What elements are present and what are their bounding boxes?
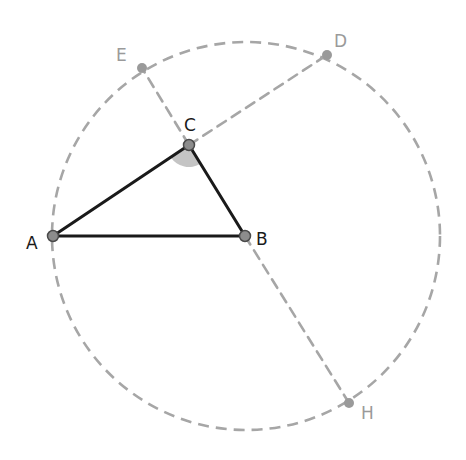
point-c[interactable] — [184, 140, 195, 151]
label-h: H — [361, 405, 374, 422]
dashed-segment-ce — [142, 68, 189, 145]
point-b[interactable] — [240, 231, 251, 242]
point-a[interactable] — [48, 231, 59, 242]
point-h[interactable] — [344, 398, 354, 408]
label-b: B — [256, 231, 268, 248]
label-d: D — [334, 33, 347, 50]
dashed-segment-bh — [245, 236, 349, 403]
segment-bc — [189, 145, 245, 236]
segment-ca — [53, 145, 189, 236]
diagram-canvas — [0, 0, 466, 460]
point-e[interactable] — [137, 63, 147, 73]
label-e: E — [116, 47, 127, 64]
dashed-segment-cd — [189, 55, 327, 145]
label-a: A — [26, 235, 38, 252]
label-c: C — [184, 117, 196, 134]
point-d[interactable] — [322, 50, 332, 60]
geometry-diagram: A B C D E H — [0, 0, 466, 460]
